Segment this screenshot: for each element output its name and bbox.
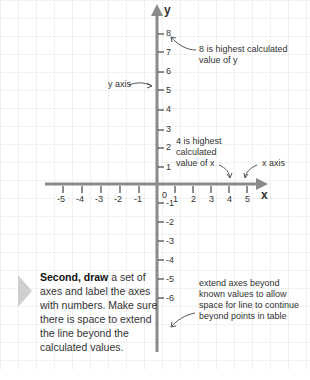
x-tick-label: 5 xyxy=(245,194,250,205)
x-tick-label: 2 xyxy=(191,194,196,205)
y-tick-label: 1 xyxy=(166,162,171,173)
x-tick-label: -5 xyxy=(57,194,65,205)
y-tick-label: -6 xyxy=(166,293,174,304)
y-tick-label: -5 xyxy=(166,274,174,285)
x-tick-label: -2 xyxy=(114,194,122,205)
y-tick-label: 3 xyxy=(166,124,171,135)
annotation-line: extend axes beyond xyxy=(199,278,299,289)
x-tick-label: 4 xyxy=(227,194,232,205)
x-tick-label: 3 xyxy=(209,194,214,205)
annotation-line: space for line to continue xyxy=(199,300,299,311)
y-tick-label: 5 xyxy=(166,85,171,96)
annotation-extend-axes: extend axes beyond known values to allow… xyxy=(199,278,299,322)
instruction-text: Second, draw a set of axes and label the… xyxy=(40,270,160,354)
origin-label: 0 xyxy=(162,190,167,201)
annotation-line: calculated xyxy=(176,147,222,158)
step-marker-icon xyxy=(18,275,32,307)
annotation-x-axis: x axis xyxy=(262,158,285,169)
annotation-line: known values to allow xyxy=(199,289,299,300)
y-tick-label: 4 xyxy=(166,104,171,115)
annotation-line: beyond points in table xyxy=(199,311,299,322)
arrow-to-8-icon xyxy=(171,37,196,50)
annotation-line: value of y xyxy=(199,55,288,66)
annotation-highest-x: 4 is highest calculated value of x xyxy=(176,136,222,169)
y-tick-label: 7 xyxy=(166,47,171,58)
y-tick-label: 6 xyxy=(166,66,171,77)
y-tick-label: 2 xyxy=(166,142,171,153)
instruction-bold: Second, draw xyxy=(40,271,108,283)
annotation-highest-y: 8 is highest calculated value of y xyxy=(199,44,288,66)
x-tick-label: -1 xyxy=(134,194,142,205)
y-tick-label: -3 xyxy=(166,236,174,247)
x-tick-label: 1 xyxy=(173,194,178,205)
y-tick-label: -4 xyxy=(166,255,174,266)
y-ticks xyxy=(158,34,164,298)
x-axis-label: x xyxy=(261,190,268,201)
y-axis-label: y xyxy=(164,5,171,16)
y-tick-label: -2 xyxy=(166,217,174,228)
x-ticks xyxy=(63,186,247,193)
y-axis-arrow-icon xyxy=(151,4,163,16)
annotation-y-axis: y axis xyxy=(108,79,131,90)
instruction-body: a set of axes and label the axes with nu… xyxy=(40,271,157,353)
x-tick-label: -3 xyxy=(95,194,103,205)
annotation-line: value of x xyxy=(176,158,222,169)
annotation-line: 4 is highest xyxy=(176,136,222,147)
y-tick-label: 8 xyxy=(166,28,171,39)
x-tick-label: -4 xyxy=(76,194,84,205)
annotation-line: 8 is highest calculated xyxy=(199,44,288,55)
arrow-extend-axes-icon xyxy=(171,313,195,327)
